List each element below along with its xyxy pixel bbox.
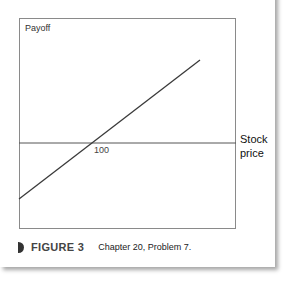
y-axis-label: Payoff [25,23,50,33]
x-axis-label-line1: Stock [240,132,280,146]
payoff-line [19,60,200,199]
figure-caption: FIGURE 3 Chapter 20, Problem 7. [18,240,191,254]
figure-caption-text: Chapter 20, Problem 7. [98,242,191,252]
caption-marker-icon [18,242,24,253]
x-tick-100: 100 [94,145,109,155]
x-axis-label: Stock price [240,132,280,160]
figure-number: FIGURE 3 [31,241,84,253]
x-axis-label-line2: price [240,146,280,160]
